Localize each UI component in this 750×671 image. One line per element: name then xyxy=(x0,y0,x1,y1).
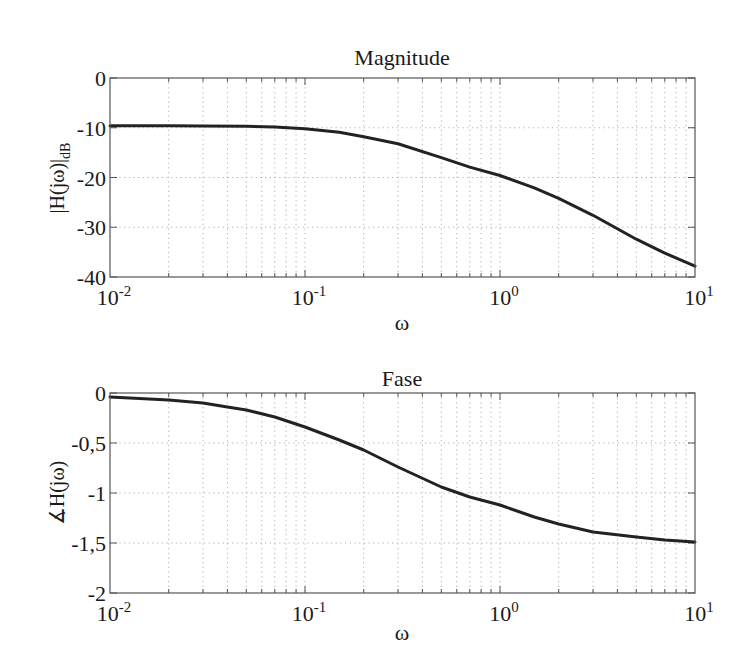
y-tick-label: -0,5 xyxy=(71,431,106,456)
phase-y-axis-label: ∡H(jω) xyxy=(46,461,69,525)
x-tick-label: 100 xyxy=(489,599,519,626)
magnitude-y-tick-labels: 0-10-20-30-40 xyxy=(77,66,106,290)
phase-y-tick-labels: 0-0,5-1-1,5-2 xyxy=(71,381,106,606)
x-tick-label: 10-2 xyxy=(97,283,132,310)
y-tick-label: -1 xyxy=(88,481,106,506)
magnitude-x-tick-labels: 10-210-1100101 xyxy=(97,283,714,310)
series-line xyxy=(110,397,695,542)
x-tick-label: 10-1 xyxy=(292,283,327,310)
bode-plot-figure: Magnitude 0-10-20-30-40 10-210-1100101 ω… xyxy=(0,0,750,671)
x-tick-label: 101 xyxy=(684,283,714,310)
phase-title: Fase xyxy=(382,366,422,391)
magnitude-x-axis-label: ω xyxy=(395,310,409,335)
x-tick-label: 101 xyxy=(684,599,714,626)
magnitude-title: Magnitude xyxy=(354,45,449,70)
magnitude-subplot: Magnitude 0-10-20-30-40 10-210-1100101 ω… xyxy=(46,45,714,335)
x-tick-label: 10-2 xyxy=(97,599,132,626)
phase-x-axis-label: ω xyxy=(395,620,409,645)
magnitude-y-axis-label-subscript: dB xyxy=(58,143,73,159)
series-line xyxy=(110,126,695,266)
phase-curve xyxy=(110,397,695,542)
magnitude-y-axis-label: |H(jω)|dB xyxy=(46,143,73,214)
magnitude-grid xyxy=(110,78,695,277)
y-tick-label: -20 xyxy=(77,166,106,191)
phase-subplot: Fase 0-0,5-1-1,5-2 10-210-1100101 ω ∡H(j… xyxy=(46,366,714,645)
magnitude-y-axis-label-main: |H(jω)| xyxy=(46,159,69,214)
y-tick-label: 0 xyxy=(95,66,106,91)
x-tick-label: 100 xyxy=(489,283,519,310)
magnitude-curve xyxy=(110,126,695,266)
y-tick-label: -1,5 xyxy=(71,531,106,556)
y-tick-label: 0 xyxy=(95,381,106,406)
y-tick-label: -10 xyxy=(77,116,106,141)
figure-canvas: Magnitude 0-10-20-30-40 10-210-1100101 ω… xyxy=(0,0,750,671)
x-tick-label: 10-1 xyxy=(292,599,327,626)
y-tick-label: -30 xyxy=(77,215,106,240)
phase-grid xyxy=(110,393,695,593)
